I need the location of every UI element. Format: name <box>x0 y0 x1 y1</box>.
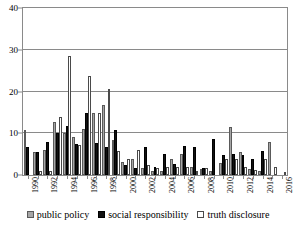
bar-2014-truth-disclosure <box>264 159 267 175</box>
bar-group-2000 <box>121 8 130 175</box>
x-tick-label-1998: 1998 <box>110 177 118 193</box>
x-tick-mark-1990 <box>28 176 29 179</box>
x-tick-mark-2012 <box>243 176 244 179</box>
chart-legend: public policysocial responsibilitytruth … <box>0 209 296 220</box>
bar-1995-truth-disclosure <box>78 145 81 175</box>
x-tick-label-2012: 2012 <box>247 177 255 193</box>
x-tick-mark-2011 <box>233 176 234 179</box>
x-tick-mark-1993 <box>57 176 58 179</box>
x-tick-label-2010: 2010 <box>227 177 235 193</box>
bar-2002-truth-disclosure <box>147 165 150 175</box>
bar-group-2008 <box>200 8 209 175</box>
y-tick-mark-40 <box>18 8 22 9</box>
x-tick-label-1994: 1994 <box>71 177 79 193</box>
bar-group-2001 <box>131 8 140 175</box>
x-tick-label-1990: 1990 <box>32 177 40 193</box>
bar-1996-truth-disclosure <box>88 76 91 175</box>
y-tick-label-10: 10 <box>9 129 18 138</box>
bar-group-1997 <box>92 8 101 175</box>
bar-2007-truth-disclosure <box>196 171 199 175</box>
bar-group-1999 <box>112 8 121 175</box>
x-tick-label-2002: 2002 <box>149 177 157 193</box>
y-axis: 010203040 <box>0 0 22 183</box>
bar-1997-truth-disclosure <box>98 113 101 175</box>
x-tick-mark-2013 <box>253 176 254 179</box>
y-tick-label-20: 20 <box>9 87 18 96</box>
x-tick-mark-2009 <box>214 176 215 179</box>
x-tick-mark-1992 <box>47 176 48 179</box>
bar-group-2005 <box>170 8 179 175</box>
bar-group-1990 <box>24 8 33 175</box>
bar-group-2007 <box>190 8 199 175</box>
legend-item-social-responsibility[interactable]: social responsibility <box>98 209 188 220</box>
x-tick-mark-2002 <box>145 176 146 179</box>
legend-item-public-policy[interactable]: public policy <box>27 209 90 220</box>
bar-group-2010 <box>219 8 228 175</box>
x-tick-mark-2007 <box>194 176 195 179</box>
bar-group-2014 <box>258 8 267 175</box>
x-tick-mark-1997 <box>96 176 97 179</box>
bar-2003-truth-disclosure <box>156 168 159 176</box>
bar-group-1998 <box>102 8 111 175</box>
bar-2012-truth-disclosure <box>244 167 247 175</box>
x-tick-mark-2006 <box>184 176 185 179</box>
bar-group-2002 <box>141 8 150 175</box>
bar-2011-truth-disclosure <box>235 159 238 175</box>
bar-group-1995 <box>72 8 81 175</box>
x-tick-mark-2004 <box>165 176 166 179</box>
x-tick-mark-1991 <box>38 176 39 179</box>
y-tick-mark-10 <box>18 133 22 134</box>
x-tick-mark-2005 <box>175 176 176 179</box>
x-tick-mark-2014 <box>263 176 264 179</box>
legend-swatch-icon <box>98 211 105 218</box>
x-tick-mark-1998 <box>106 176 107 179</box>
x-tick-mark-2003 <box>155 176 156 179</box>
x-tick-label-2016: 2016 <box>286 177 294 193</box>
y-tick-label-40: 40 <box>9 4 18 13</box>
x-axis: 1990199219941996199820002002200420062008… <box>23 177 287 207</box>
legend-swatch-icon <box>197 211 204 218</box>
bar-2005-truth-disclosure <box>176 167 179 175</box>
bar-2009-social-responsibility <box>212 139 215 175</box>
x-tick-label-2008: 2008 <box>208 177 216 193</box>
x-tick-label-2000: 2000 <box>130 177 138 193</box>
legend-swatch-icon <box>27 211 34 218</box>
x-tick-mark-1996 <box>87 176 88 179</box>
bar-group-1996 <box>82 8 91 175</box>
bar-group-2004 <box>160 8 169 175</box>
x-tick-mark-2010 <box>223 176 224 179</box>
x-tick-mark-1994 <box>67 176 68 179</box>
bar-2000-truth-disclosure <box>127 159 130 175</box>
bar-1993-truth-disclosure <box>59 117 62 175</box>
x-tick-mark-2016 <box>282 176 283 179</box>
bar-1994-truth-disclosure <box>68 56 71 175</box>
bar-2015-public-policy <box>268 142 271 175</box>
x-tick-label-2006: 2006 <box>188 177 196 193</box>
bar-2015-truth-disclosure <box>274 167 277 175</box>
bar-2004-truth-disclosure <box>166 167 169 175</box>
bar-group-1991 <box>33 8 42 175</box>
bar-group-1993 <box>53 8 62 175</box>
y-tick-mark-20 <box>18 91 22 92</box>
x-tick-label-2014: 2014 <box>267 177 275 193</box>
bar-group-2015 <box>268 8 277 175</box>
x-tick-mark-2008 <box>204 176 205 179</box>
bar-group-2009 <box>209 8 218 175</box>
bar-group-2006 <box>180 8 189 175</box>
y-tick-label-30: 30 <box>9 45 18 54</box>
x-tick-mark-1999 <box>116 176 117 179</box>
bar-group-2003 <box>151 8 160 175</box>
x-tick-mark-1995 <box>77 176 78 179</box>
bar-2016-truth-disclosure <box>284 172 287 175</box>
bars-layer <box>23 8 287 175</box>
y-tick-mark-30 <box>18 49 22 50</box>
bar-group-2013 <box>248 8 257 175</box>
x-tick-mark-2000 <box>126 176 127 179</box>
legend-item-truth-disclosure[interactable]: truth disclosure <box>197 209 269 220</box>
legend-label: truth disclosure <box>207 209 269 220</box>
bar-group-1994 <box>63 8 72 175</box>
x-tick-label-1996: 1996 <box>91 177 99 193</box>
bar-group-2016 <box>278 8 287 175</box>
grouped-bar-chart: 010203040 199019921994199619982000200220… <box>0 0 296 228</box>
bar-2010-truth-disclosure <box>225 159 228 175</box>
